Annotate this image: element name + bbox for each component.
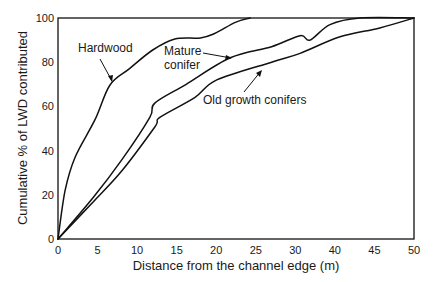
x-tick-label: 25: [250, 244, 262, 256]
x-axis-title: Distance from the channel edge (m): [133, 258, 340, 273]
x-tick-label: 10: [131, 244, 143, 256]
x-tick-label: 20: [210, 244, 222, 256]
annotation-hardwood: Hardwood: [78, 41, 133, 55]
y-tick-label: 0: [48, 233, 54, 245]
x-tick-label: 45: [368, 244, 380, 256]
y-axis-ticks: 020406080100: [36, 12, 54, 245]
x-axis-ticks: 051015202530404550: [55, 244, 420, 256]
x-tick-label: 0: [55, 244, 61, 256]
annotation-mature-line1: Mature: [164, 44, 202, 58]
x-tick-label: 5: [94, 244, 100, 256]
x-tick-label: 40: [329, 244, 341, 256]
arrowhead-hardwood: [108, 75, 113, 82]
y-tick-label: 20: [42, 189, 54, 201]
x-tick-label: 30: [289, 244, 301, 256]
annotation-old-growth: Old growth conifers: [203, 93, 306, 107]
chart: 020406080100 051015202530404550 Distance…: [0, 0, 433, 282]
x-tick-label: 50: [408, 244, 420, 256]
annotation-mature-line2: conifer: [164, 58, 200, 72]
x-tick-label: 15: [171, 244, 183, 256]
y-tick-label: 100: [36, 12, 54, 24]
y-tick-label: 60: [42, 100, 54, 112]
y-tick-label: 40: [42, 145, 54, 157]
y-axis-title: Cumulative % of LWD contributed: [15, 31, 30, 225]
y-tick-label: 80: [42, 56, 54, 68]
